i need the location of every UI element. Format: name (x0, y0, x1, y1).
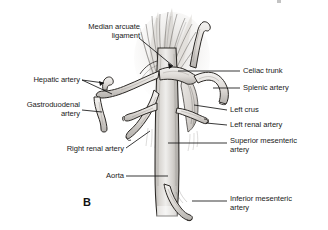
label-left-crus: Left crus (230, 105, 314, 114)
label-splenic-artery: Splenic artery (243, 83, 327, 92)
anatomical-figure: Median arcuate ligament Hepatic artery G… (0, 0, 328, 230)
label-celiac-trunk: Celiac trunk (243, 66, 327, 75)
label-median-arcuate-ligament: Median arcuate ligament (50, 22, 140, 41)
label-aorta: Aorta (84, 171, 124, 180)
right-renal-artery-vessel (123, 103, 158, 121)
leader-left-crus (194, 105, 227, 110)
gastroduodenal-artery-vessel (94, 97, 107, 132)
label-right-renal-artery: Right renal artery (32, 144, 124, 153)
label-hepatic-artery: Hepatic artery (6, 75, 80, 84)
leader-left-renal-artery (206, 123, 227, 125)
label-superior-mesenteric-artery: Superior mesenteric artery (230, 136, 326, 155)
label-inferior-mesenteric-artery: Inferior mesenteric artery (230, 194, 326, 213)
label-left-renal-artery: Left renal artery (230, 120, 322, 129)
panel-letter-b: B (83, 196, 91, 208)
proper-hepatic-branch (103, 77, 114, 90)
label-gastroduodenal-artery: Gastroduodenal artery (4, 100, 80, 119)
